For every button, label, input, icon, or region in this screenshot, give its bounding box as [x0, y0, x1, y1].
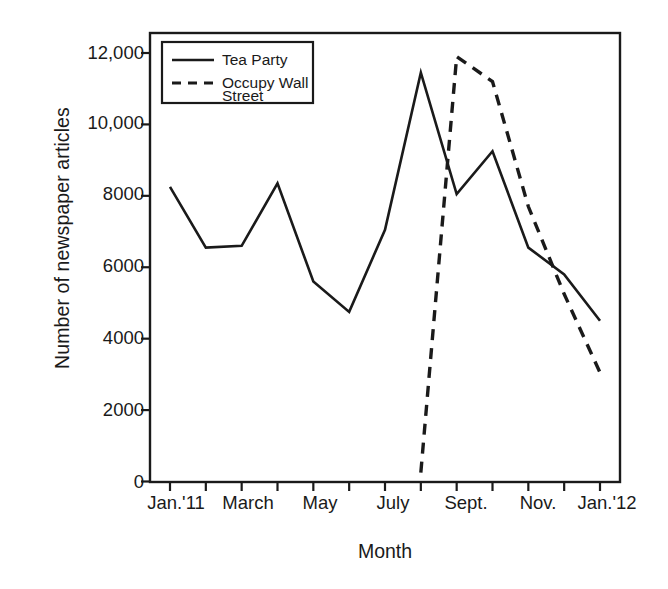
x-tick-marks: [170, 482, 600, 491]
chart-figure: Number of newspaper articles 12,000 10,0…: [0, 0, 668, 589]
legend-label-tea-party: Tea Party: [222, 51, 288, 68]
chart-legend: Tea Party Occupy Wall Street: [162, 42, 313, 104]
data-series-group: [170, 57, 600, 473]
y-tick-marks: [141, 53, 150, 482]
series-line-occupy-wall-street: [421, 57, 600, 473]
series-line-tea-party: [170, 73, 600, 321]
plot-area: Tea Party Occupy Wall Street: [0, 0, 668, 589]
legend-label-occupy-wall-street-line2: Street: [222, 87, 264, 104]
